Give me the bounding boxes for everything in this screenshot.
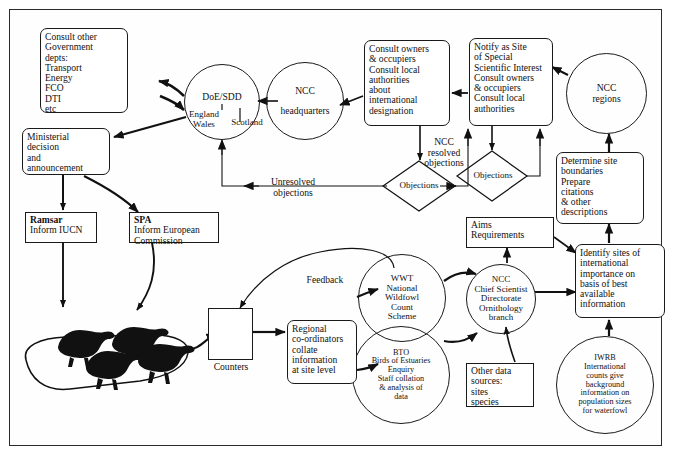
node-spa[interactable]: SPAInform European Commission bbox=[129, 212, 219, 243]
node-label: Notify as Site of Special Scientific Int… bbox=[474, 42, 542, 114]
node-label: WWT National Wildfowl Count Scheme bbox=[385, 274, 419, 322]
node-doe-sdd-title: DoE/SDD bbox=[184, 92, 260, 103]
node-label: NCC regions bbox=[592, 83, 620, 104]
flowchart-canvas: Consult other Government depts: Transpor… bbox=[0, 0, 674, 457]
node-label-block: RamsarInform IUCN bbox=[30, 215, 83, 236]
node-consult-owners-international[interactable]: Consult owners & occupiers Consult local… bbox=[364, 40, 450, 126]
node-consult-other-government[interactable]: Consult other Government depts: Transpor… bbox=[40, 28, 128, 113]
node-identify-sites[interactable]: Identify sites of international importan… bbox=[575, 244, 665, 318]
node-label: Consult owners & occupiers Consult local… bbox=[369, 44, 429, 116]
node-ncc-regions[interactable]: NCC regions bbox=[566, 53, 647, 134]
label-ncc-resolved-objections: NCC resolved objections bbox=[410, 137, 478, 169]
label-counters: Counters bbox=[198, 362, 264, 373]
label-feedback: Feedback bbox=[292, 275, 358, 286]
label-objections-right: Objections bbox=[461, 171, 525, 181]
node-label-block: SPAInform European Commission bbox=[134, 215, 200, 246]
node-label: IWRB International counts give backgroun… bbox=[579, 354, 632, 415]
label-objections-left: Objections bbox=[387, 181, 451, 191]
node-ramsar[interactable]: RamsarInform IUCN bbox=[25, 212, 97, 243]
node-doe-sdd-england-wales: England Wales bbox=[183, 110, 225, 130]
label-unresolved-objections: Unresolved objections bbox=[240, 177, 346, 198]
node-counters-box[interactable] bbox=[208, 308, 253, 360]
node-label: Other data sources: sites species bbox=[471, 366, 511, 407]
node-label: BTO Birds of Estuaries Enquiry Staff col… bbox=[372, 349, 431, 402]
node-label: Ministerial decision and announcement bbox=[27, 132, 83, 173]
node-label: Identify sites of international importan… bbox=[580, 248, 640, 310]
node-label: NCC Chief Scientist Directorate Ornithol… bbox=[474, 275, 527, 323]
node-regional-coordinators[interactable]: Regional co-ordinators collate informati… bbox=[287, 320, 357, 384]
node-other-data-sources[interactable]: Other data sources: sites species bbox=[466, 363, 534, 407]
node-aims-requirements[interactable]: Aims Requirements bbox=[466, 217, 554, 248]
node-doe-sdd-scotland: Scotland bbox=[224, 118, 270, 128]
node-ncc-headquarters[interactable]: NCC headquarters bbox=[266, 62, 344, 140]
node-label: Aims Requirements bbox=[471, 220, 524, 241]
node-label-body: Inform IUCN bbox=[30, 224, 83, 235]
node-ministerial-decision[interactable]: Ministerial decision and announcement bbox=[22, 128, 110, 175]
node-bto[interactable]: BTO Birds of Estuaries Enquiry Staff col… bbox=[352, 326, 450, 424]
node-label: Regional co-ordinators collate informati… bbox=[292, 324, 343, 375]
node-notify-sssi[interactable]: Notify as Site of Special Scientific Int… bbox=[469, 38, 553, 126]
node-iwrb[interactable]: IWRB International counts give backgroun… bbox=[556, 336, 654, 434]
node-label: NCC headquarters bbox=[280, 86, 329, 117]
node-ncc-chief-scientist[interactable]: NCC Chief Scientist Directorate Ornithol… bbox=[466, 264, 536, 334]
node-determine-site-boundaries[interactable]: Determine site boundaries Prepare citati… bbox=[556, 152, 644, 224]
node-label-body: Inform European Commission bbox=[134, 224, 200, 245]
node-label: Determine site boundaries Prepare citati… bbox=[561, 156, 617, 218]
node-label: Consult other Government depts: Transpor… bbox=[45, 32, 97, 114]
